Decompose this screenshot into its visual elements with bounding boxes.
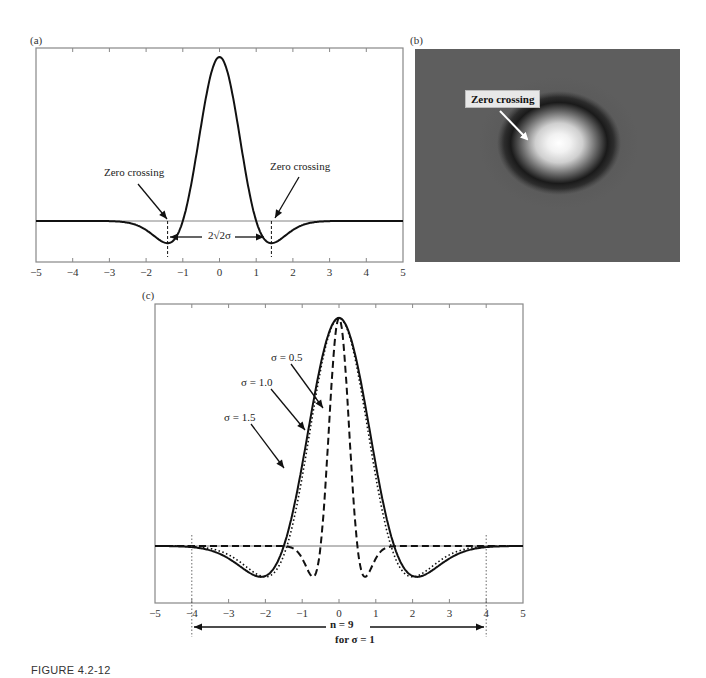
legend-sigma-1-5: σ = 1.5 [224,411,255,423]
panel-b-arrow-icon [500,111,527,139]
legend-sigma-0-5: σ = 0.5 [271,351,302,363]
legend-sigma-1-0: σ = 1.0 [241,376,272,388]
panel-b-arrow [0,0,706,678]
figure-caption: FIGURE 4.2-12 [31,664,111,676]
panel-c-span-sublabel: for σ = 1 [335,633,375,645]
panel-c-label: (c) [142,289,154,301]
panel-c-span-label: n = 9 [326,618,357,630]
